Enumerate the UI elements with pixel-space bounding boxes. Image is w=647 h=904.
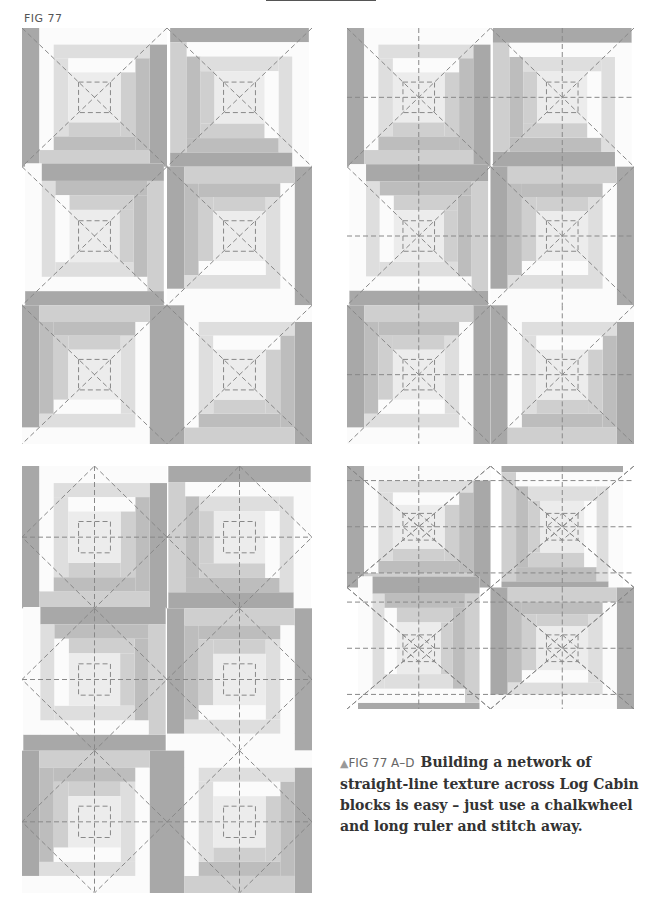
figure-label: FIG 77 xyxy=(24,12,63,25)
quilt-panel-a xyxy=(22,28,312,444)
header-rule xyxy=(266,0,376,1)
quilt-panel-c xyxy=(22,466,312,893)
figure-caption: ▲FIG 77 A–DBuilding a network of straigh… xyxy=(340,752,640,837)
caption-tag: FIG 77 A–D xyxy=(348,756,414,770)
quilt-panel-b xyxy=(347,28,634,444)
quilt-panel-d xyxy=(347,466,634,709)
